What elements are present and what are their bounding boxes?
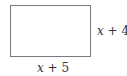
height-label: x + 4: [97, 25, 127, 37]
height-label-rest: + 4: [104, 24, 127, 38]
rectangle-shape: [10, 5, 91, 57]
width-label: x + 5: [37, 62, 69, 74]
width-label-rest: + 5: [44, 61, 69, 75]
height-label-variable: x: [97, 24, 104, 38]
width-label-variable: x: [37, 61, 44, 75]
